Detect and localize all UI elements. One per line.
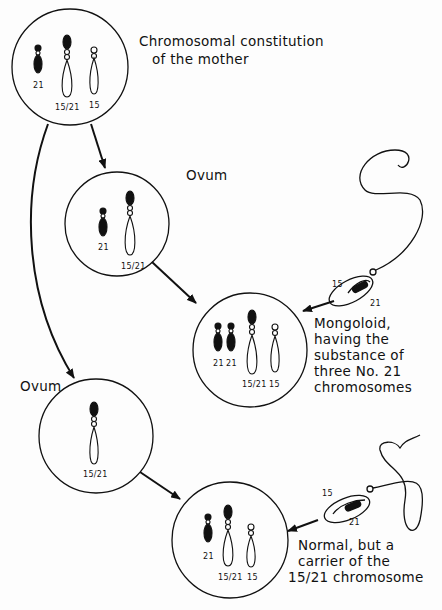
carrier-chr-21: [204, 514, 212, 542]
ovum2-chr-15-21: [90, 402, 98, 464]
mongoloid-chr-21b: [227, 323, 235, 351]
mongoloid-chr-label-21b: 21: [226, 356, 237, 372]
sperm2-label-15: 15: [322, 486, 333, 502]
mongoloid-desc-line4: three No. 21: [314, 363, 412, 379]
carrier-chr-label-15: 15: [247, 570, 258, 586]
mother-chr-label-15-21: 15/21: [55, 100, 80, 116]
mother-title-line2: of the mother: [152, 51, 249, 67]
mother-chr-21: [34, 45, 42, 73]
mongoloid-desc-line5: chromosomes: [314, 379, 412, 395]
mongoloid-chr-label-21a: 21: [213, 356, 224, 372]
carrier-desc-line2: carrier of the: [298, 553, 434, 569]
carrier-chr-15: [247, 524, 255, 567]
mother-title-line1: Chromosomal constitution: [139, 33, 324, 49]
ovum1-chr-15-21: [125, 191, 135, 255]
ovum1-label: Ovum: [186, 167, 228, 183]
mother-chr-label-15: 15: [89, 98, 100, 114]
ovum2-chr-label-15-21: 15/21: [83, 467, 108, 483]
mongoloid-description: Mongoloid, having the substance of three…: [314, 315, 412, 395]
mongoloid-chr-21a: [214, 323, 222, 351]
sperm2-label-21: 21: [349, 515, 360, 531]
mongoloid-chr-label-15-21: 15/21: [242, 377, 267, 393]
mongoloid-chr-label-15: 15: [269, 377, 280, 393]
carrier-chr-label-15-21: 15/21: [218, 570, 243, 586]
mongoloid-chr-15-21: [247, 310, 257, 374]
sperm2: [321, 435, 423, 530]
ovum1-chr-label-21: 21: [98, 240, 109, 256]
carrier-description: Normal, but a carrier of the 15/21 chrom…: [288, 537, 424, 585]
arrow-mother-to-ovum1: [91, 124, 105, 168]
carrier-chr-15-21: [223, 505, 233, 566]
mother-chr-15: [90, 47, 98, 94]
translocation-diagram: Chromosomal constitution of the mother 2…: [0, 0, 442, 610]
arrow-sperm2-to-carrier: [288, 520, 318, 531]
arrow-mother-to-ovum2: [31, 124, 74, 378]
mother-chr-label-21: 21: [33, 78, 44, 94]
arrow-ovum1-to-mongoloid: [152, 262, 196, 303]
mongoloid-desc-line1: Mongoloid,: [314, 315, 412, 331]
carrier-desc-line3: 15/21 chromosome: [288, 569, 424, 585]
sperm1-label-21: 21: [370, 296, 381, 312]
ovum1-chr-21: [99, 208, 107, 236]
carrier-desc-line1: Normal, but a: [298, 537, 434, 553]
ovum2-label: Ovum: [20, 378, 62, 394]
mongoloid-desc-line3: substance of: [314, 347, 412, 363]
mongoloid-desc-line2: having the: [314, 331, 412, 347]
sperm1-label-15: 15: [332, 277, 343, 293]
arrow-ovum2-to-carrier: [140, 472, 180, 499]
mongoloid-chr-15: [271, 324, 279, 372]
ovum1-chr-label-15-21: 15/21: [121, 259, 146, 275]
carrier-chr-label-21: 21: [203, 549, 214, 565]
mother-chr-15-21: [62, 35, 72, 97]
ovum1-cell: [65, 172, 169, 276]
